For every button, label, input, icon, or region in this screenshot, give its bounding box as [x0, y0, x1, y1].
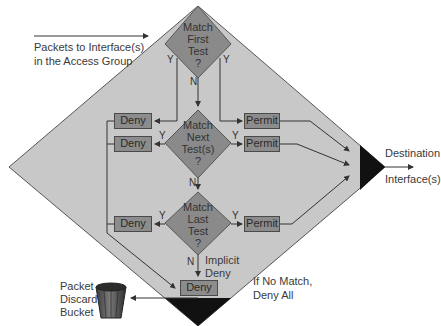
destination-line2: Interface(s)	[385, 173, 441, 186]
last-yes-left: Y	[159, 210, 166, 221]
decision-next-line3: Test(s)	[173, 143, 223, 155]
decision-first-line4: ?	[173, 57, 223, 69]
discard-label-line2: Discard	[60, 293, 97, 306]
deny-box-2: Deny	[114, 136, 152, 152]
destination-corner	[360, 145, 385, 190]
decision-first-label: Match First Test ?	[173, 21, 223, 69]
decision-last-line4: ?	[173, 237, 223, 249]
decision-next-line2: Next	[173, 131, 223, 143]
no-match-line2: Deny All	[253, 289, 293, 302]
last-no: N	[187, 256, 194, 267]
next-yes-right: Y	[232, 130, 239, 141]
first-yes-left: Y	[167, 54, 174, 65]
first-yes-right: Y	[223, 54, 230, 65]
decision-first-line1: Match	[173, 21, 223, 33]
first-no: N	[190, 76, 197, 87]
permit-box-1: Permit	[244, 113, 280, 129]
decision-next-line1: Match	[173, 119, 223, 131]
next-yes-left: Y	[159, 130, 166, 141]
deny-all-corner	[165, 298, 231, 326]
decision-last-line3: Test	[173, 225, 223, 237]
decision-first-line2: First	[173, 33, 223, 45]
decision-first-line3: Test	[173, 45, 223, 57]
discard-bucket-icon	[96, 283, 126, 318]
input-label-line2: in the Access Group	[34, 55, 132, 68]
decision-next-label: Match Next Test(s) ?	[173, 119, 223, 167]
decision-last-line2: Last	[173, 213, 223, 225]
decision-next-line4: ?	[173, 155, 223, 167]
deny-box-implicit: Deny	[180, 280, 218, 296]
next-no: N	[189, 177, 196, 188]
discard-label-line1: Packet	[60, 280, 94, 293]
destination-line1: Destination	[385, 147, 440, 160]
no-match-line1: If No Match,	[253, 275, 312, 288]
deny-box-3: Deny	[114, 216, 152, 232]
decision-last-line1: Match	[173, 201, 223, 213]
discard-label-line3: Bucket	[60, 306, 94, 319]
deny-box-1: Deny	[114, 113, 152, 129]
implicit-deny-line2: Deny	[205, 267, 231, 280]
permit-box-3: Permit	[244, 216, 280, 232]
decision-last-label: Match Last Test ?	[173, 201, 223, 249]
implicit-deny-line1: Implicit	[205, 254, 239, 267]
last-yes-right: Y	[232, 210, 239, 221]
permit-box-2: Permit	[244, 136, 280, 152]
input-label-line1: Packets to Interface(s)	[34, 41, 144, 54]
